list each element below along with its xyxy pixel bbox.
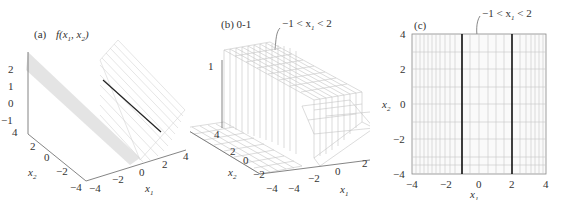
- x1-tick: −4: [288, 182, 300, 194]
- x2-tick: −4: [70, 181, 82, 193]
- grid-lines: [412, 34, 546, 174]
- z-tick: 1: [8, 80, 14, 92]
- x2-tick: 2: [30, 140, 36, 152]
- x2-tick: 2: [230, 145, 236, 157]
- annotation-b: −1 < x1 < 2: [282, 17, 332, 32]
- contour-plot-c: (c) −1 < x1 < 2 4 2 0 −2 −4 x2 −4 −2 0 2…: [370, 0, 564, 200]
- y-tick: 0: [400, 98, 406, 110]
- z-tick: 0: [8, 97, 14, 109]
- x-tick: −2: [440, 178, 452, 190]
- y-tick: 4: [400, 28, 406, 40]
- x2-tick: −2: [253, 168, 265, 180]
- x1-tick: −4: [89, 182, 101, 194]
- x-tick: 2: [509, 178, 515, 190]
- panel-c: (c) −1 < x1 < 2 4 2 0 −2 −4 x2 −4 −2 0 2…: [370, 0, 564, 200]
- x1-tick: 0: [139, 166, 145, 178]
- decision-line: [103, 80, 161, 132]
- panel-b: (b) 0-1 −1 < x1 < 2: [190, 0, 370, 200]
- x1-tick: −2: [308, 172, 320, 184]
- panel-a-label: (a): [34, 28, 47, 41]
- x2-axis-label: x2: [381, 98, 391, 113]
- y-tick: −4: [393, 168, 405, 180]
- surface-plot-b: (b) 0-1 −1 < x1 < 2: [190, 0, 370, 200]
- x2-tick: 0: [243, 154, 249, 166]
- x-tick: 4: [543, 178, 549, 190]
- x2-axis-label: x2: [27, 166, 37, 181]
- z-tick: 1: [208, 60, 214, 72]
- x-tick: −4: [406, 178, 418, 190]
- x1-tick: 2: [162, 158, 168, 170]
- x1-tick: −2: [112, 173, 124, 185]
- x1-tick: 4: [183, 150, 189, 162]
- x2-axis-label: x2: [227, 166, 237, 181]
- x1-tick: 2: [362, 157, 368, 169]
- step-mesh: [190, 42, 370, 174]
- panel-c-label: (c): [414, 19, 427, 32]
- x1-tick: 0: [335, 165, 341, 177]
- y-tick: 2: [400, 63, 406, 75]
- x-tick: 0: [476, 178, 482, 190]
- z-tick: −1: [1, 114, 13, 126]
- x1-axis-label: x1: [339, 183, 348, 198]
- panel-b-label: (b) 0-1: [221, 18, 251, 31]
- x1-axis-label: x1: [144, 182, 153, 197]
- y-tick: −2: [393, 133, 405, 145]
- annotation-c: −1 < x1 < 2: [482, 7, 532, 22]
- x2-tick: −4: [266, 182, 278, 194]
- z-tick: 2: [8, 63, 14, 75]
- x2-tick: 0: [44, 151, 50, 163]
- panel-a-title: f(x1, x2): [56, 28, 89, 43]
- x2-tick: 4: [214, 128, 220, 140]
- x2-tick: 4: [12, 126, 18, 138]
- x2-tick: −2: [56, 165, 68, 177]
- panel-a: (a) f(x1, x2) 2 1: [0, 0, 190, 200]
- surface-plot-a: (a) f(x1, x2) 2 1: [0, 0, 190, 200]
